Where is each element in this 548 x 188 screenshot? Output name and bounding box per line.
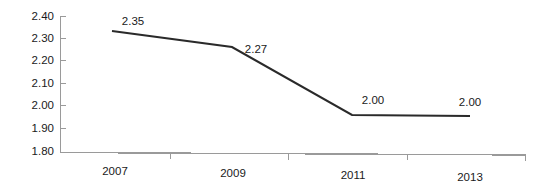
y-tick-label: 2.20 [32, 54, 54, 66]
data-point-label: 2.27 [245, 43, 267, 55]
line-chart: 2.40 2.30 2.20 2.10 2.00 1.90 1.80 2007 … [0, 0, 548, 188]
y-tick-label: 1.80 [32, 145, 54, 157]
y-tick-labels: 2.40 2.30 2.20 2.10 2.00 1.90 1.80 [32, 10, 54, 157]
x-tick-label: 2007 [102, 165, 128, 177]
y-tick-label: 2.00 [32, 99, 54, 111]
data-point-label: 2.00 [362, 94, 384, 106]
y-tick-label: 2.40 [32, 10, 54, 22]
y-tick-label: 1.90 [32, 122, 54, 134]
y-tick-label: 2.10 [32, 77, 54, 89]
x-axis-line [60, 153, 526, 156]
x-tick-label: 2013 [457, 171, 483, 183]
y-tick-label: 2.30 [32, 32, 54, 44]
x-tick-label: 2011 [341, 169, 366, 181]
data-point-labels: 2.35 2.27 2.00 2.00 [122, 15, 481, 108]
series-line-0 [112, 31, 470, 116]
data-point-label: 2.35 [122, 15, 144, 27]
data-point-label: 2.00 [459, 96, 481, 108]
chart-canvas: 2.40 2.30 2.20 2.10 2.00 1.90 1.80 2007 … [0, 0, 548, 188]
x-tick-labels: 2007 2009 2011 2013 [102, 165, 483, 183]
x-tick-label: 2009 [220, 167, 246, 179]
